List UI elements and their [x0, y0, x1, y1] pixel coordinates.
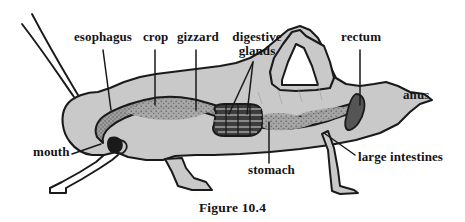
middle-leg-shape — [165, 158, 212, 190]
label-gizzard: gizzard — [177, 30, 219, 44]
middle-leg — [165, 158, 212, 190]
figure-caption: Figure 10.4 — [0, 200, 465, 216]
label-mouth: mouth — [33, 145, 70, 159]
label-rectum: rectum — [341, 30, 381, 44]
label-anus: anus — [403, 88, 429, 102]
figure-container: esophagus crop gizzard digestive glands … — [0, 0, 465, 222]
antenna-upper — [32, 14, 78, 95]
antenna-lower — [22, 24, 74, 97]
label-esophagus: esophagus — [74, 30, 132, 44]
digestive-glands — [213, 104, 262, 136]
antennae — [22, 14, 78, 97]
front-leg — [50, 155, 118, 193]
label-digestive-glands-line1: digestive — [232, 29, 281, 44]
front-leg-shape — [50, 155, 118, 193]
label-digestive-glands-line2: glands — [239, 43, 276, 58]
label-digestive-glands: digestive glands — [226, 30, 288, 58]
label-stomach: stomach — [248, 163, 295, 177]
label-large-intestines: large intestines — [358, 150, 443, 164]
label-crop: crop — [143, 30, 168, 44]
